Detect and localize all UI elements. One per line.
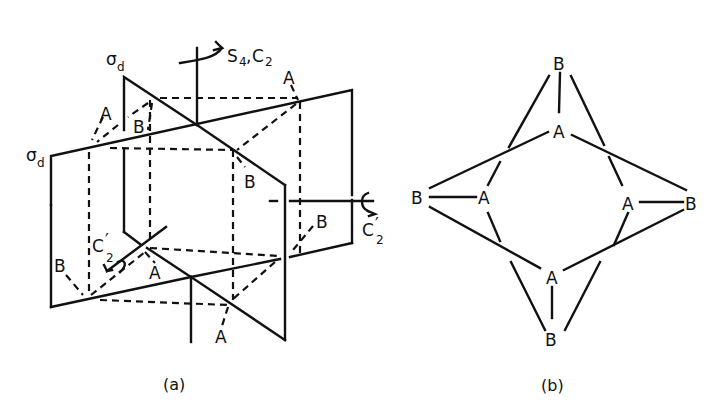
atom-b-top: B — [553, 54, 565, 74]
diagram-canvas: S 4 , C 2 σ d σ d A B A B B B A A C ′ 2 … — [0, 0, 716, 415]
atom-label: B — [244, 172, 256, 192]
svg-text:′: ′ — [105, 230, 109, 250]
plane-label-sigma-d-front: σ — [26, 145, 37, 165]
svg-text:d: d — [117, 60, 125, 74]
svg-text:2: 2 — [265, 55, 273, 69]
atom-a-left: A — [478, 188, 490, 208]
caption-a: (a) — [163, 375, 185, 394]
plane-label-sigma-d-back: σ — [106, 49, 117, 69]
svg-text:′: ′ — [375, 214, 379, 234]
atom-label: B — [316, 212, 328, 232]
atom-label: B — [54, 256, 66, 276]
atom-a-bottom: A — [546, 268, 558, 288]
svg-text:,: , — [246, 46, 251, 66]
figure-b-bonds — [430, 73, 686, 330]
atom-b-right: B — [685, 194, 697, 214]
axis-label-c2-prime-right: C — [362, 220, 374, 240]
svg-text:d: d — [37, 156, 45, 170]
atom-label: B — [133, 117, 145, 137]
atom-label: A — [283, 68, 295, 88]
sigma-d-plane-front — [51, 90, 352, 307]
atom-a-top: A — [553, 122, 565, 142]
atom-label: A — [215, 327, 227, 347]
figure-a-labels: S 4 , C 2 σ d σ d A B A B B B A A C ′ 2 … — [26, 46, 384, 394]
atom-a-right: A — [622, 194, 634, 214]
axis-label-s4: S — [227, 46, 238, 66]
principal-axis-s4-c2 — [180, 42, 222, 342]
atom-label: A — [100, 104, 112, 124]
axis-label-c2-prime-front: C — [92, 236, 104, 256]
atom-b-left: B — [411, 188, 423, 208]
atom-label: A — [149, 263, 161, 283]
figure-b: B A B A A B A B (b) — [411, 54, 697, 395]
caption-b: (b) — [541, 376, 564, 395]
svg-text:2: 2 — [376, 233, 384, 247]
svg-text:2: 2 — [106, 251, 114, 265]
figure-a: S 4 , C 2 σ d σ d A B A B B B A A C ′ 2 … — [26, 42, 384, 394]
sigma-d-plane-back — [124, 77, 285, 340]
axis-label-c2: C — [252, 46, 264, 66]
atom-b-bottom: B — [545, 330, 557, 350]
